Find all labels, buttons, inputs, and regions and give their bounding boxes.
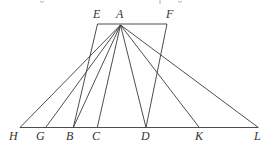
- segment-AB: [73, 25, 120, 128]
- diagram-segments: [20, 24, 258, 128]
- cutoff-text-fragments: [40, 0, 182, 4]
- segment-EB: [73, 24, 97, 128]
- point-label-K: K: [194, 129, 204, 143]
- point-label-B: B: [66, 129, 74, 143]
- point-label-E: E: [92, 7, 101, 21]
- geometry-diagram: EAFHGBCDKL: [0, 0, 271, 147]
- point-label-D: D: [140, 129, 150, 143]
- point-label-L: L: [253, 129, 261, 143]
- segment-AH: [20, 25, 121, 128]
- segment-AL: [121, 25, 259, 128]
- point-label-A: A: [115, 7, 124, 21]
- point-label-C: C: [92, 129, 101, 143]
- segment-FD: [146, 24, 167, 128]
- segment-AK: [121, 25, 200, 128]
- point-label-G: G: [36, 129, 45, 143]
- diagram-labels: EAFHGBCDKL: [8, 7, 261, 143]
- segment-AD: [121, 25, 147, 128]
- point-label-H: H: [8, 129, 19, 143]
- point-label-F: F: [165, 7, 174, 21]
